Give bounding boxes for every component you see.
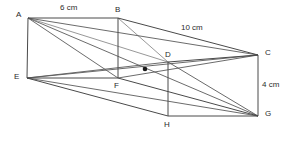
- vertex-label-g: G: [265, 110, 271, 118]
- vertex-label-h: H: [164, 121, 170, 129]
- edge-FG: [118, 78, 258, 116]
- centre-point: [143, 67, 148, 72]
- diagonal-EC: [27, 55, 258, 78]
- vertex-label-c: C: [265, 49, 271, 57]
- diagonal-AG: [28, 18, 258, 116]
- diagonal-AC: [28, 18, 258, 55]
- figure-canvas: [0, 0, 289, 142]
- vertex-label-f: F: [114, 82, 119, 90]
- diagonal-EG: [27, 78, 258, 116]
- vertex-label-a: A: [16, 11, 21, 19]
- edge-EH-base: [27, 78, 168, 116]
- vertex-label-d: D: [165, 51, 171, 59]
- edge-AD-hidden: [28, 18, 168, 62]
- edge-DC: [168, 55, 258, 62]
- dimension-ab: 6 cm: [60, 4, 77, 12]
- cuboid-diagram: ABCDEFGH 6 cm10 cm4 cm: [0, 0, 289, 142]
- diagonal-DG: [168, 62, 258, 116]
- dimension-bc: 10 cm: [181, 24, 203, 32]
- hidden-edges-group: [28, 18, 168, 62]
- edge-AE: [27, 18, 28, 78]
- dimension-cg: 4 cm: [262, 81, 279, 89]
- vertex-label-b: B: [115, 6, 120, 14]
- markers-group: [143, 67, 148, 72]
- vertex-label-e: E: [14, 73, 19, 81]
- diagonals-group: [27, 18, 258, 116]
